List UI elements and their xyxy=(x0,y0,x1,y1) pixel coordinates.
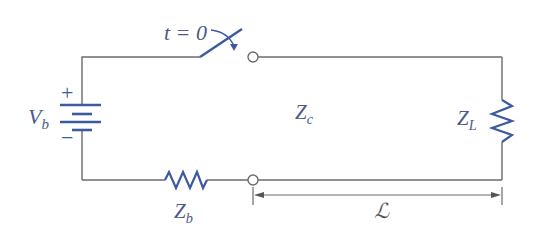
bottom-terminal-icon xyxy=(248,175,258,185)
switch-label: t = 0 xyxy=(164,20,207,46)
source-voltage-sub: b xyxy=(41,116,48,132)
load-impedance-main: Z xyxy=(457,106,469,130)
line-length-label: ℒ xyxy=(374,199,389,224)
minus-sign: − xyxy=(61,125,73,151)
line-impedance-label: Zc xyxy=(295,100,313,128)
source-impedance-sub: b xyxy=(186,210,193,226)
top-terminal-icon xyxy=(248,52,258,62)
dimension-arrow-right-icon xyxy=(491,192,501,198)
left-top-wire xyxy=(82,57,200,105)
source-resistor-icon xyxy=(165,172,207,188)
load-impedance-sub: L xyxy=(469,117,477,133)
line-impedance-main: Z xyxy=(295,100,307,124)
source-voltage-label: Vb xyxy=(28,104,49,133)
source-impedance-main: Z xyxy=(174,199,186,223)
load-impedance-label: ZL xyxy=(457,106,477,134)
source-voltage-main: V xyxy=(28,104,41,129)
load-resistor-icon xyxy=(492,100,512,142)
wires xyxy=(82,57,502,180)
line-impedance-sub: c xyxy=(307,111,313,127)
source-impedance-label: Zb xyxy=(174,199,193,227)
dimension-arrow-left-icon xyxy=(254,192,264,198)
plus-sign: + xyxy=(61,80,73,106)
